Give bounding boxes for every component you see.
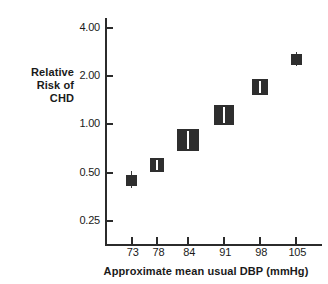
marker-center-line [187,131,189,149]
x-axis-title: Approximate mean usual DBP (mmHg) [86,265,326,277]
marker-box [291,54,302,65]
marker-box [126,175,137,186]
marker-center-line [156,160,158,170]
marker-center-line [259,81,261,93]
plot-area [0,0,328,284]
marker-center-line [223,107,225,123]
chart-figure: Relative Risk of CHD 4.002.001.000.500.2… [0,0,328,284]
